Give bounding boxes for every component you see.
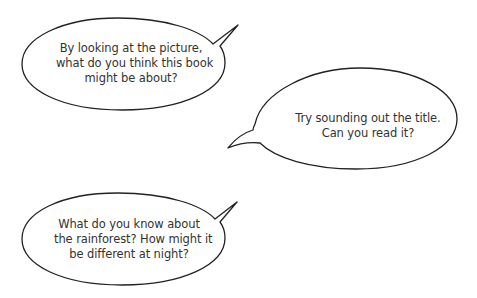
bubble-1-line-2: what do you think this book (56, 56, 206, 71)
bubble-1-line-1: By looking at the picture, (56, 41, 206, 56)
bubble-3-line-1: What do you know about (54, 217, 204, 232)
bubble-2-line-2: Can you read it? (283, 126, 453, 141)
speech-bubble-2-text: Try sounding out the title. Can you read… (283, 111, 453, 141)
speech-bubble-3-text: What do you know about the rainforest? H… (54, 217, 204, 262)
speech-bubble-1-text: By looking at the picture, what do you t… (56, 41, 206, 86)
bubble-3-line-3: be different at night? (54, 247, 204, 262)
bubble-1-line-3: might be about? (56, 71, 206, 86)
bubble-2-line-1: Try sounding out the title. (283, 111, 453, 126)
bubble-3-line-2: the rainforest? How might it (54, 232, 204, 247)
